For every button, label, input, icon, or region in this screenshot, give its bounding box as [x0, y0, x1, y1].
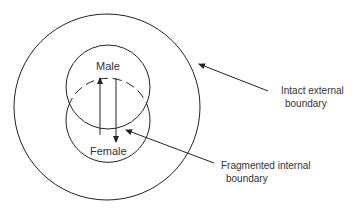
external-pointer-arrow — [199, 64, 268, 91]
internal-pointer-arrow — [126, 130, 214, 163]
internal-boundary-label-1: Fragmented internal — [221, 159, 311, 172]
internal-boundary-label-2: boundary — [226, 172, 268, 185]
outer-boundary-circle — [14, 14, 200, 200]
female-circle-dashed — [69, 78, 148, 106]
male-circle — [66, 45, 150, 129]
male-label: Male — [96, 60, 120, 73]
external-boundary-label-1: Intact external — [281, 84, 344, 97]
female-label: Female — [90, 145, 127, 158]
external-boundary-label-2: boundary — [285, 97, 327, 110]
